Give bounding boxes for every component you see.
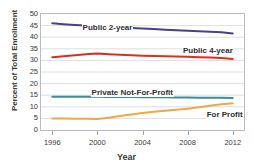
y-tick-5: 5 bbox=[20, 114, 38, 122]
y-tick-10: 10 bbox=[20, 103, 38, 111]
series-line-public-2-year bbox=[52, 23, 232, 33]
x-tick-2000: 2000 bbox=[82, 138, 112, 147]
y-tick-30: 30 bbox=[20, 56, 38, 64]
x-tick-2004: 2004 bbox=[128, 138, 158, 147]
x-axis-title: Year bbox=[0, 152, 253, 162]
y-tick-0: 0 bbox=[20, 126, 38, 134]
y-tick-20: 20 bbox=[20, 80, 38, 88]
y-tick-45: 45 bbox=[20, 22, 38, 30]
annotation-for-profit: For Profit bbox=[206, 110, 244, 119]
y-axis-tick-labels: 50454035302520151050 bbox=[16, 0, 38, 168]
annotation-private-not-for-profit: Private Not-For-Profit bbox=[91, 88, 174, 97]
x-tickmark-2000 bbox=[97, 131, 98, 135]
annotation-public-2-year: Public 2-year bbox=[82, 23, 134, 32]
y-tick-50: 50 bbox=[20, 10, 38, 18]
series-line-private-not-for-profit bbox=[52, 97, 232, 98]
y-tick-35: 35 bbox=[20, 45, 38, 53]
x-tickmark-2008 bbox=[188, 131, 189, 135]
enrollment-line-chart: Percent of Total Enrollment 504540353025… bbox=[0, 0, 253, 168]
annotation-public-4-year: Public 4-year bbox=[182, 46, 234, 55]
x-tickmark-1996 bbox=[52, 131, 53, 135]
x-tick-2012: 2012 bbox=[218, 138, 248, 147]
x-tickmark-2012 bbox=[233, 131, 234, 135]
y-tick-25: 25 bbox=[20, 68, 38, 76]
x-tickmark-2004 bbox=[143, 131, 144, 135]
x-tick-1996: 1996 bbox=[37, 138, 67, 147]
y-tick-15: 15 bbox=[20, 91, 38, 99]
y-tick-40: 40 bbox=[20, 33, 38, 41]
x-tick-2008: 2008 bbox=[173, 138, 203, 147]
